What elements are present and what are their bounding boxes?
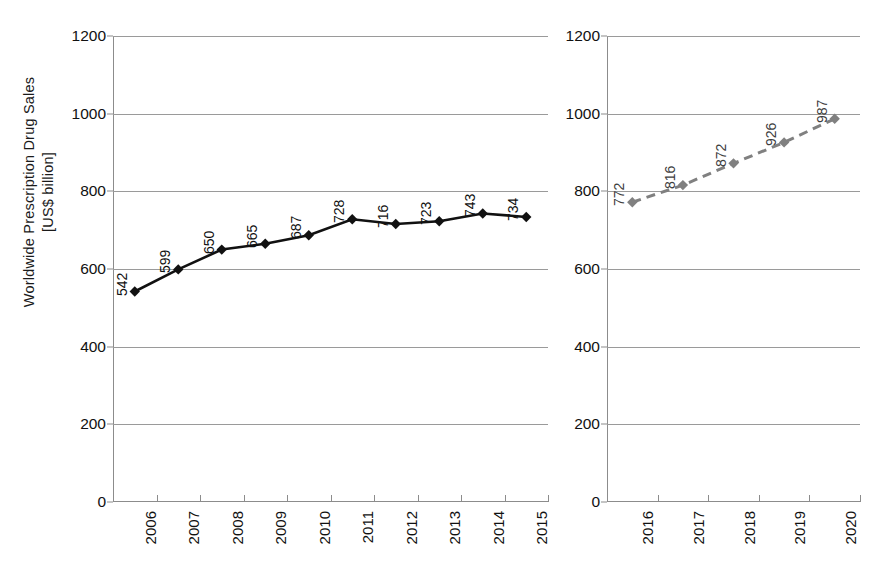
y-tick-label: 600 <box>80 260 106 278</box>
gridline <box>113 347 548 348</box>
y-tick-label: 400 <box>80 338 106 356</box>
x-tick-mark <box>658 495 659 502</box>
data-point-label: 987 <box>814 99 830 122</box>
figure-root: Worldwide Prescription Drug Sales [US$ b… <box>0 0 895 579</box>
data-point-label: 650 <box>201 230 217 253</box>
gridline <box>113 191 548 192</box>
x-tick-label: 2010 <box>316 511 333 544</box>
data-point-marker <box>521 212 531 222</box>
y-tick-mark <box>601 269 607 270</box>
gridline <box>113 114 548 115</box>
gridline <box>113 424 548 425</box>
data-point-marker <box>627 197 637 207</box>
series-line <box>135 213 527 291</box>
data-point-marker <box>217 244 227 254</box>
data-point-label: 872 <box>713 144 729 167</box>
x-tick-label: 2007 <box>185 511 202 544</box>
x-tick-label: 2008 <box>229 511 246 544</box>
x-tick-mark <box>374 495 375 502</box>
data-point-label: 716 <box>375 205 391 228</box>
data-point-label: 772 <box>611 183 627 206</box>
y-tick-mark <box>601 113 607 114</box>
x-axis-line-right <box>607 501 860 502</box>
gridline <box>607 424 860 425</box>
data-point-label: 599 <box>157 250 173 273</box>
data-point-marker <box>779 137 789 147</box>
y-tick-label: 600 <box>574 260 600 278</box>
y-tick-mark <box>107 113 113 114</box>
y-tick-mark <box>601 36 607 37</box>
y-tick-label: 1200 <box>566 27 600 45</box>
x-tick-mark <box>505 495 506 502</box>
x-tick-label: 2006 <box>142 511 159 544</box>
data-point-marker <box>130 286 140 296</box>
series-line <box>632 119 834 202</box>
data-point-marker <box>347 214 357 224</box>
y-tick-label: 800 <box>80 182 106 200</box>
plot-area-forecast: 0200400600800100012002016201720182019202… <box>607 36 860 502</box>
data-point-marker <box>304 230 314 240</box>
data-point-label: 734 <box>505 198 521 221</box>
x-tick-mark <box>708 495 709 502</box>
chart-panel-forecast: 0200400600800100012002016201720182019202… <box>560 0 895 579</box>
x-tick-label: 2019 <box>791 511 808 544</box>
y-tick-mark <box>107 191 113 192</box>
y-tick-label: 1000 <box>566 105 600 123</box>
x-tick-label: 2017 <box>690 511 707 544</box>
data-point-label: 542 <box>114 272 130 295</box>
x-tick-mark <box>759 495 760 502</box>
x-tick-mark <box>607 495 608 502</box>
x-tick-mark <box>113 495 114 502</box>
y-tick-mark <box>601 424 607 425</box>
data-point-marker <box>391 219 401 229</box>
x-tick-mark <box>287 495 288 502</box>
y-tick-mark <box>107 269 113 270</box>
x-tick-label: 2012 <box>403 511 420 544</box>
x-tick-mark <box>331 495 332 502</box>
y-tick-label: 400 <box>574 338 600 356</box>
plot-area-historical: 0200400600800100012002006200720082009201… <box>113 36 548 502</box>
data-point-label: 665 <box>244 224 260 247</box>
y-tick-label: 1200 <box>72 27 106 45</box>
x-tick-label: 2014 <box>490 511 507 544</box>
data-point-marker <box>678 180 688 190</box>
y-tick-label: 200 <box>574 415 600 433</box>
x-tick-label: 2011 <box>359 511 376 543</box>
gridline <box>607 36 860 37</box>
data-point-label: 926 <box>763 123 779 146</box>
x-tick-mark <box>418 495 419 502</box>
y-tick-mark <box>601 191 607 192</box>
x-tick-mark <box>200 495 201 502</box>
x-tick-mark <box>244 495 245 502</box>
y-tick-label: 0 <box>591 493 600 511</box>
x-tick-mark <box>548 495 549 502</box>
data-point-marker <box>728 158 738 168</box>
gridline <box>607 191 860 192</box>
gridline <box>113 36 548 37</box>
x-tick-label: 2016 <box>639 511 656 544</box>
x-tick-mark <box>860 495 861 502</box>
y-tick-label: 200 <box>80 415 106 433</box>
x-tick-label: 2015 <box>533 511 550 544</box>
chart-panel-historical: 0200400600800100012002006200720082009201… <box>0 0 560 579</box>
x-tick-label: 2018 <box>741 511 758 544</box>
y-tick-mark <box>107 346 113 347</box>
gridline <box>607 269 860 270</box>
y-tick-label: 1000 <box>72 105 106 123</box>
gridline <box>607 347 860 348</box>
y-tick-label: 800 <box>574 182 600 200</box>
y-tick-mark <box>107 424 113 425</box>
data-point-label: 723 <box>418 202 434 225</box>
x-tick-label: 2009 <box>272 511 289 544</box>
data-point-label: 687 <box>288 216 304 239</box>
data-point-marker <box>434 216 444 226</box>
x-tick-label: 2020 <box>842 511 859 544</box>
data-point-marker <box>478 208 488 218</box>
y-tick-label: 0 <box>97 493 106 511</box>
x-tick-mark <box>157 495 158 502</box>
x-tick-mark <box>461 495 462 502</box>
data-point-label: 743 <box>462 194 478 217</box>
x-tick-label: 2013 <box>446 511 463 544</box>
data-point-label: 728 <box>331 200 347 223</box>
data-point-marker <box>830 114 840 124</box>
